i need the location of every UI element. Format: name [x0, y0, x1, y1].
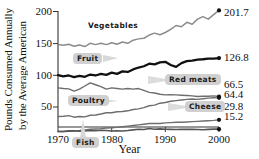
series-line-vegetables	[58, 10, 219, 46]
end-marker-fruit	[217, 56, 221, 60]
ytick-label-100: 100	[28, 69, 52, 81]
end-value-fish: 15.2	[224, 110, 243, 122]
series-label-fruit: Fruit	[73, 53, 102, 64]
end-marker-poultry	[217, 96, 221, 100]
end-marker-vegetables	[217, 8, 221, 12]
ytick-label-150: 150	[28, 37, 52, 49]
x-axis-title: Year	[0, 142, 259, 157]
fish-leader	[80, 119, 86, 138]
ytick-label-200: 200	[28, 5, 52, 17]
y-axis-title-line-2: by the Average American	[16, 18, 28, 134]
end-value-vegetables: 201.7	[224, 6, 249, 18]
end-value-poultry: 64.4	[224, 88, 243, 100]
series-label-vegetables: Vegetables	[88, 21, 138, 30]
chart-series-layer	[58, 8, 221, 132]
series-label-fish: Fish	[72, 137, 99, 148]
chart-figure: Pounds Consumed Annually by the Average …	[0, 0, 259, 159]
ytick-label-50: 50	[28, 100, 52, 112]
end-marker-cheese	[217, 118, 221, 122]
y-axis-title-line-1: Pounds Consumed Annually	[2, 6, 14, 134]
end-marker-fish	[217, 127, 221, 131]
fruit-leader	[103, 55, 118, 62]
series-label-poultry: Poultry	[68, 95, 109, 106]
end-value-fruit: 126.8	[224, 51, 249, 63]
series-label-red-meats: Red meats	[165, 74, 221, 85]
series-label-cheese: Cheese	[185, 101, 225, 112]
